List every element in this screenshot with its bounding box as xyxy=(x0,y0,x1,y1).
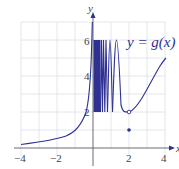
chart-canvas: x y −4 −2 2 4 2 4 6 y = g(x) xyxy=(0,0,179,169)
oscillation-dense-block xyxy=(94,40,101,112)
x-tick-4: 4 xyxy=(161,152,167,164)
y-axis-label: y xyxy=(87,2,93,14)
x-tick-neg4: −4 xyxy=(14,152,26,164)
x-tick-2: 2 xyxy=(126,152,132,164)
function-label: y = g(x) xyxy=(125,34,175,51)
x-axis-arrow-icon xyxy=(169,146,175,151)
curve-right-branch xyxy=(129,58,166,112)
x-tick-neg2: −2 xyxy=(50,152,62,164)
y-tick-6: 6 xyxy=(84,35,90,47)
x-axis-label: x xyxy=(175,142,179,154)
filled-point-g2 xyxy=(127,128,131,132)
open-point-hole xyxy=(127,110,131,114)
y-tick-4: 4 xyxy=(84,70,90,82)
